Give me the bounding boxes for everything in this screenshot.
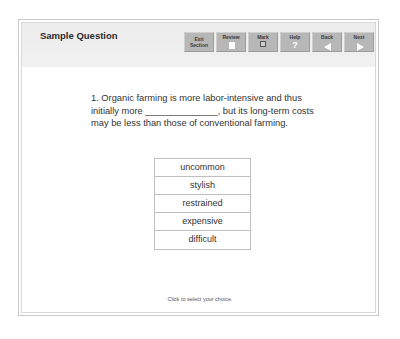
mark-label: Mark [249,34,277,40]
review-label: Review [217,34,245,40]
page-title: Sample Question [40,30,118,41]
exit-section-button[interactable]: Exit Section [184,32,214,52]
back-button[interactable]: Back [312,32,342,52]
next-button[interactable]: Next [344,32,374,52]
question-text: 1. Organic farming is more labor-intensi… [91,92,341,130]
review-button[interactable]: Review [216,32,246,52]
arrow-left-icon [324,43,331,51]
document-icon [229,42,235,49]
help-button[interactable]: Help ? [280,32,310,52]
choice-restrained[interactable]: restrained [155,195,250,213]
question-line-2: initially more ______________, but its l… [91,105,341,118]
choice-stylish[interactable]: stylish [155,177,250,195]
question-line-1: 1. Organic farming is more labor-intensi… [91,92,341,105]
arrow-right-icon [357,43,364,51]
question-line-3: may be less than those of conventional f… [91,117,341,130]
choice-uncommon[interactable]: uncommon [155,159,250,177]
answer-choices: uncommon stylish restrained expensive di… [154,158,251,250]
instruction-hint: Click to select your choice. [0,296,400,302]
exit-label-line2: Section [190,42,208,48]
question-icon: ? [281,40,309,50]
back-label: Back [313,34,341,40]
next-label: Next [345,34,373,40]
choice-expensive[interactable]: expensive [155,213,250,231]
choice-difficult[interactable]: difficult [155,231,250,249]
mark-button[interactable]: Mark [248,32,278,52]
checkbox-icon [260,41,266,47]
